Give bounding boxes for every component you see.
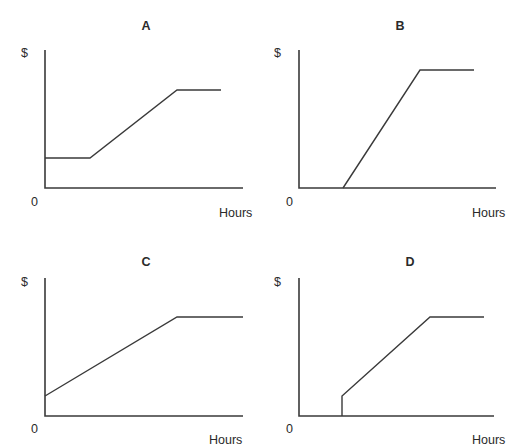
panel-a-y-axis-label: $: [21, 47, 28, 60]
panel-a-graphics: [45, 50, 243, 188]
panel-a-series-line: [45, 90, 221, 158]
panel-b-y-axis-label: $: [274, 47, 281, 60]
panel-a-axes: [45, 50, 243, 188]
panel-b-title: B: [395, 20, 404, 33]
plot-canvas: [0, 0, 516, 447]
panel-b-x-axis-label: Hours: [472, 207, 505, 220]
panel-b-series-line: [343, 70, 474, 188]
panel-c-y-axis-label: $: [21, 276, 28, 289]
panel-d-title: D: [405, 256, 414, 269]
panel-d-series-line: [342, 317, 484, 416]
panel-c-series-line: [45, 317, 243, 396]
panel-b-graphics: [299, 50, 496, 188]
panel-d-y-axis-label: $: [274, 276, 281, 289]
panel-c-axes: [45, 278, 243, 416]
panel-c-title: C: [141, 256, 150, 269]
panel-d-x-axis-label: Hours: [472, 434, 505, 447]
panel-d-graphics: [299, 278, 494, 416]
panel-c-origin-label: 0: [31, 423, 38, 436]
panel-b-origin-label: 0: [286, 196, 293, 209]
panel-a-x-axis-label: Hours: [219, 207, 252, 220]
panel-d-origin-label: 0: [286, 423, 293, 436]
figure: A $ 0 Hours B $ 0 Hours C $ 0 Hours D $ …: [0, 0, 516, 447]
panel-a-title: A: [141, 20, 150, 33]
panel-c-x-axis-label: Hours: [209, 434, 242, 447]
panel-a-origin-label: 0: [31, 196, 38, 209]
panel-c-graphics: [45, 278, 243, 416]
